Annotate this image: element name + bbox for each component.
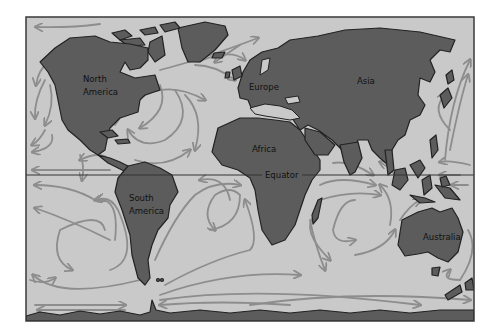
label-north-america-line1: North xyxy=(83,74,107,84)
label-europe: Europe xyxy=(249,82,279,92)
label-south-america-line2: America xyxy=(129,206,164,216)
world-ocean-currents-map: North America South America Europe Asia … xyxy=(0,0,499,335)
label-north-america-line2: America xyxy=(83,87,118,97)
label-equator: Equator xyxy=(265,170,299,180)
label-australia: Australia xyxy=(423,232,461,242)
label-south-america-line1: South xyxy=(129,193,154,203)
label-asia: Asia xyxy=(357,76,375,86)
label-africa: Africa xyxy=(252,144,276,154)
